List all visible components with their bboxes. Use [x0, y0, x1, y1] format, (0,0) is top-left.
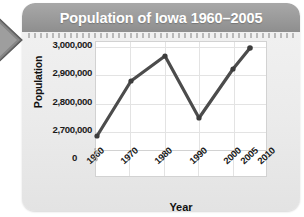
chart-title: Population of Iowa 1960–2005	[60, 10, 263, 26]
data-point-2005	[247, 45, 253, 51]
chart-title-banner: Population of Iowa 1960–2005	[22, 3, 300, 32]
gridline-vertical	[198, 151, 199, 176]
y-axis-origin-label: 0	[72, 152, 77, 163]
y-tick-label: 2,800,000	[36, 96, 92, 107]
data-point-1990	[196, 115, 201, 120]
data-point-1960	[94, 133, 99, 138]
gridline-vertical	[164, 151, 165, 176]
data-point-1980	[162, 53, 167, 58]
x-axis-label: Year	[95, 201, 267, 211]
y-axis-ticks: 3,000,000 2,900,000 2,800,000 2,700,000	[32, 38, 92, 178]
chart-screenshot: Population of Iowa 1960–2005 Population …	[0, 0, 304, 217]
chart-card: Population of Iowa 1960–2005 Population …	[22, 3, 300, 211]
gridline-vertical	[129, 151, 130, 176]
plot-area-break-band	[95, 151, 267, 177]
y-tick-label: 2,900,000	[36, 67, 92, 78]
y-tick-label: 3,000,000	[36, 39, 92, 50]
series-polyline	[97, 48, 250, 136]
y-tick-label: 2,700,000	[36, 124, 92, 135]
data-series-line	[95, 41, 267, 151]
axis-break-squiggle-icon	[91, 148, 101, 162]
chart-region: Population 3,000,000 2,900,000 2,800,000…	[22, 38, 300, 211]
data-point-2000	[230, 66, 235, 71]
chevron-right-icon	[0, 2, 30, 78]
data-point-1970	[128, 78, 133, 83]
gridline-vertical	[233, 151, 234, 176]
